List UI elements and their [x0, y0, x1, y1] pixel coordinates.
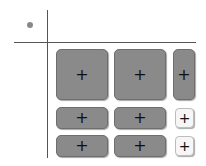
horizontal-divider [14, 42, 196, 43]
plus-icon: + [133, 67, 146, 83]
add-button-r2c3[interactable]: + [175, 108, 194, 128]
add-button-r1c1[interactable]: + [56, 49, 108, 100]
add-button-r2c2[interactable]: + [114, 107, 166, 129]
add-button-r3c2[interactable]: + [114, 135, 166, 157]
corner-dot [27, 22, 33, 28]
add-button-r3c1[interactable]: + [56, 135, 108, 157]
plus-icon: + [133, 110, 146, 126]
plus-icon: + [133, 138, 146, 154]
add-button-r1c3[interactable]: + [173, 49, 195, 100]
vertical-divider [47, 10, 48, 158]
plus-icon: + [75, 67, 88, 83]
add-button-r1c2[interactable]: + [114, 49, 166, 100]
plus-icon: + [179, 111, 191, 125]
add-button-r3c3[interactable]: + [175, 136, 194, 156]
plus-icon: + [179, 139, 191, 153]
add-button-r2c1[interactable]: + [56, 107, 108, 129]
plus-icon: + [75, 138, 88, 154]
plus-icon: + [177, 67, 190, 83]
plus-icon: + [75, 110, 88, 126]
